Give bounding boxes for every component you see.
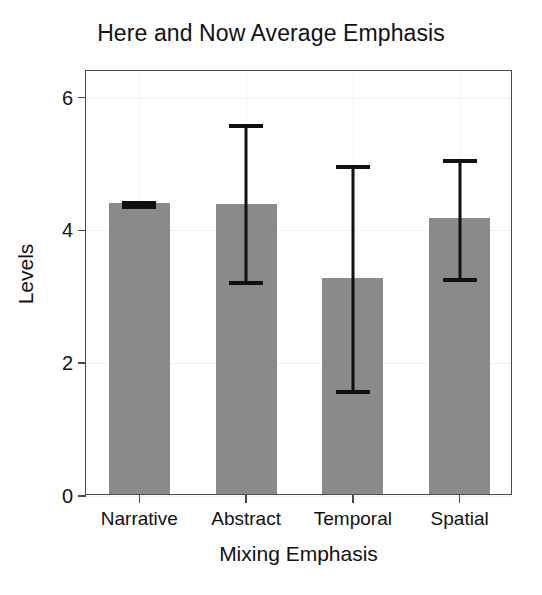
error-bar-stem-abstract bbox=[245, 126, 248, 283]
error-bar-stem-spatial bbox=[458, 161, 461, 280]
error-bar-cap-upper-abstract bbox=[229, 124, 263, 128]
x-tick-mark bbox=[245, 494, 247, 503]
error-bar-cap-lower-temporal bbox=[336, 390, 370, 394]
error-bar-cap-lower-spatial bbox=[443, 278, 477, 282]
y-axis-label: Levels bbox=[14, 224, 38, 324]
y-tick-label: 2 bbox=[62, 352, 73, 375]
y-tick-label: 0 bbox=[62, 485, 73, 508]
plot-area: 0246 NarrativeAbstractTemporalSpatial bbox=[85, 70, 512, 495]
x-tick-label-abstract: Abstract bbox=[211, 508, 281, 530]
y-tick-label: 6 bbox=[62, 86, 73, 109]
error-bar-cap-upper-temporal bbox=[336, 165, 370, 169]
gridline-horizontal bbox=[86, 496, 511, 497]
y-tick-mark bbox=[78, 362, 86, 364]
x-tick-label-temporal: Temporal bbox=[314, 508, 392, 530]
error-bar-cap-lower-abstract bbox=[229, 281, 263, 285]
y-tick-label: 4 bbox=[62, 219, 73, 242]
y-tick-mark bbox=[78, 230, 86, 232]
error-bar-cap-lower-narrative bbox=[122, 205, 156, 209]
error-bar-cap-upper-spatial bbox=[443, 159, 477, 163]
x-tick-mark bbox=[139, 494, 141, 503]
x-tick-mark bbox=[459, 494, 461, 503]
chart-title: Here and Now Average Emphasis bbox=[0, 20, 542, 47]
y-tick-mark bbox=[78, 495, 86, 497]
y-tick-mark bbox=[78, 97, 86, 99]
x-tick-label-narrative: Narrative bbox=[101, 508, 178, 530]
x-axis-label: Mixing Emphasis bbox=[85, 542, 512, 566]
gridline-horizontal bbox=[86, 98, 511, 99]
x-tick-mark bbox=[352, 494, 354, 503]
error-bar-stem-temporal bbox=[351, 167, 354, 393]
x-tick-label-spatial: Spatial bbox=[431, 508, 489, 530]
bar-narrative bbox=[109, 203, 170, 494]
bar-chart-figure: Here and Now Average Emphasis Levels 024… bbox=[0, 0, 542, 595]
